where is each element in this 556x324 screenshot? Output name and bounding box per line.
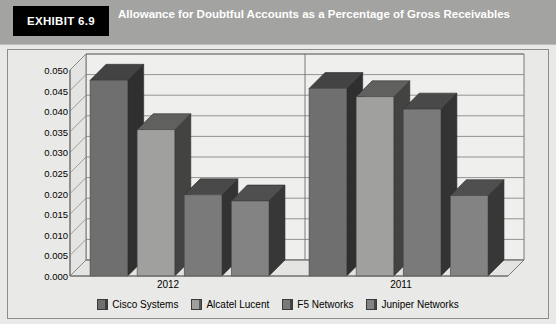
legend-swatch-icon: [366, 299, 377, 310]
legend-item[interactable]: Cisco Systems: [97, 299, 178, 310]
legend-label: Cisco Systems: [112, 299, 178, 310]
legend-swatch-icon: [282, 299, 293, 310]
legend-item[interactable]: Alcatel Lucent: [191, 299, 269, 310]
exhibit-header: EXHIBIT 6.9 Allowance for Doubtful Accou…: [0, 0, 556, 44]
exhibit-title: Allowance for Doubtful Accounts as a Per…: [118, 7, 538, 21]
legend-item[interactable]: Juniper Networks: [366, 299, 458, 310]
x-category-label: 2012: [128, 279, 208, 290]
legend-swatch-icon: [97, 299, 108, 310]
plot-area: [8, 50, 548, 298]
chart-panel: 0.050 0.045 0.040 0.035 0.030 0.025 0.02…: [0, 44, 556, 324]
chart-legend: Cisco Systems Alcatel Lucent F5 Networks…: [8, 296, 548, 312]
bar-chart: 0.050 0.045 0.040 0.035 0.030 0.025 0.02…: [8, 50, 548, 318]
legend-item[interactable]: F5 Networks: [282, 299, 353, 310]
exhibit-number-label: EXHIBIT 6.9: [27, 15, 95, 27]
legend-swatch-icon: [191, 299, 202, 310]
exhibit-number-tab: EXHIBIT 6.9: [13, 6, 109, 36]
chart-frame: 0.050 0.045 0.040 0.035 0.030 0.025 0.02…: [7, 49, 549, 319]
legend-label: F5 Networks: [297, 299, 353, 310]
legend-label: Alcatel Lucent: [206, 299, 269, 310]
x-category-label: 2011: [361, 279, 441, 290]
legend-label: Juniper Networks: [381, 299, 458, 310]
